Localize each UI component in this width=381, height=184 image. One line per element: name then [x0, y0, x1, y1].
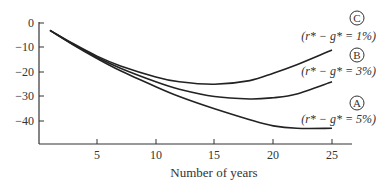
- series-lines: [50, 30, 332, 128]
- annotation-a: A (r* − g* = 5%): [301, 96, 376, 126]
- label-b: B: [353, 49, 360, 61]
- note-c: (r* − g* = 1%): [301, 29, 376, 43]
- annotation-b: B (r* − g* = 3%): [301, 48, 376, 78]
- x-tick-label: 10: [150, 148, 162, 162]
- note-b: (r* − g* = 3%): [301, 64, 376, 78]
- label-a: A: [353, 97, 361, 109]
- curve-c: [50, 30, 332, 84]
- note-a: (r* − g* = 5%): [301, 112, 376, 126]
- annotation-c: C (r* − g* = 1%): [301, 11, 376, 43]
- x-ticks: 5 10 15 20 25: [94, 139, 338, 162]
- y-tick-label: 0: [28, 16, 34, 30]
- curve-a: [50, 30, 332, 128]
- x-tick-label: 20: [267, 148, 279, 162]
- y-tick-label: −20: [15, 65, 34, 79]
- x-axis-label: Number of years: [170, 165, 257, 180]
- x-tick-label: 5: [94, 148, 100, 162]
- y-tick-label: −10: [15, 40, 34, 54]
- y-tick-label: −30: [15, 89, 34, 103]
- line-chart: 0 −10 −20 −30 −40 5 10 15 20 25 Number o…: [0, 0, 381, 184]
- y-ticks: 0 −10 −20 −30 −40: [15, 16, 44, 128]
- curve-b: [50, 30, 332, 99]
- y-tick-label: −40: [15, 114, 34, 128]
- x-tick-label: 25: [326, 148, 338, 162]
- label-c: C: [353, 12, 360, 24]
- x-tick-label: 15: [208, 148, 220, 162]
